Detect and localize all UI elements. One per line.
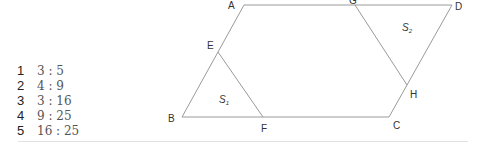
label-g: G — [349, 0, 357, 6]
segment-ef — [218, 52, 263, 117]
label-f: F — [261, 123, 267, 134]
label-a: A — [228, 0, 235, 11]
label-c: C — [393, 120, 400, 131]
area-label-s2: S2 — [402, 22, 413, 34]
divider — [18, 141, 468, 142]
label-h: H — [410, 89, 417, 100]
label-e: E — [207, 40, 214, 51]
label-d: D — [455, 1, 462, 12]
area-label-s1: S1 — [219, 94, 229, 106]
segment-gh — [355, 5, 407, 85]
label-b: B — [168, 113, 175, 124]
parallelogram-figure: A G D E B F H C S1 S2 — [0, 0, 482, 144]
